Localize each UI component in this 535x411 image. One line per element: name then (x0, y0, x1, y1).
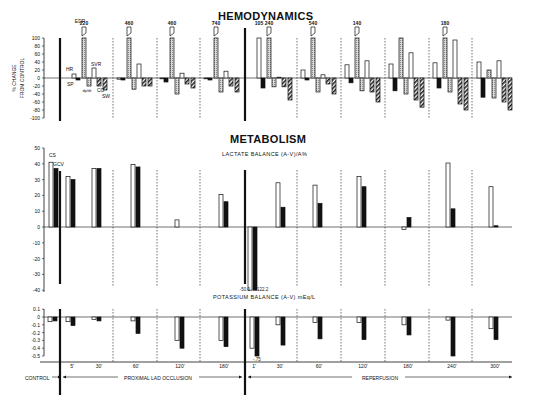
bar-svr (409, 53, 413, 78)
edp-value-label: 240 (265, 20, 274, 26)
hemo-y-tick-label: 100 (32, 35, 41, 41)
hemo-y-tick-label: -80 (33, 107, 40, 113)
lactate-y-tick-label: 20 (34, 192, 40, 198)
bar-cs-potassium (48, 317, 52, 322)
bar-cs (92, 169, 96, 227)
bar-sw (376, 78, 380, 102)
bar-dpdt (404, 78, 408, 94)
arrow-head (239, 376, 242, 379)
bar-hr (433, 63, 437, 78)
bar-gcv-potassium (136, 317, 140, 333)
bar-dpdt (87, 78, 91, 86)
bar-svr (321, 75, 325, 78)
edp-value-label: 460 (168, 20, 177, 26)
label-edp: EDP (75, 18, 86, 24)
figure: HEMODYNAMICS METABOLISM LACTATE BALANCE … (0, 0, 535, 411)
bar-edp (267, 38, 271, 78)
bar-dpdt (132, 78, 136, 89)
bar-edp (170, 38, 174, 78)
time-label: 60' (133, 363, 140, 369)
potassium-y-tick-label: -0.3 (31, 337, 40, 343)
bar-gcv-potassium (71, 317, 75, 326)
bar-hr (204, 78, 208, 79)
edp-break-marker (443, 27, 447, 36)
bar-sw (148, 78, 152, 86)
bar-gcv (281, 207, 285, 227)
bar-svr (365, 61, 369, 78)
bar-sp (393, 78, 397, 91)
bar-edp (443, 38, 447, 78)
bar-cs (66, 176, 70, 227)
bar-dpdt (492, 78, 496, 98)
potassium-y-tick-label: 0.1 (33, 306, 40, 312)
bar-dpdt (448, 78, 452, 92)
bar-gcv-potassium (255, 317, 259, 356)
bar-gcv (253, 227, 257, 290)
annotation-potassium: -.75 (253, 357, 261, 362)
bar-edp (311, 38, 315, 78)
bar-cs (276, 183, 280, 227)
bar-gcv-potassium (318, 317, 322, 339)
bar-cs (131, 165, 135, 227)
bar-dpdt (272, 78, 276, 87)
bar-sp (164, 78, 168, 82)
hemo-y-tick-label: 60 (34, 51, 40, 57)
lactate-y-tick-label: 30 (34, 177, 40, 183)
edp-value-label: 540 (309, 20, 318, 26)
bar-cs (49, 162, 53, 227)
bar-sp (437, 78, 441, 88)
time-label: 5' (70, 363, 74, 369)
hr-value-label: 105 (255, 20, 264, 26)
edp-break-marker (214, 27, 218, 36)
hemo-y-tick-label: 80 (34, 43, 40, 49)
time-label: 120' (175, 363, 184, 369)
bar-edp (82, 38, 86, 78)
bar-hr (257, 38, 261, 78)
chart-canvas: 100806040200-20-40-60-80-100% CHANGEFROM… (0, 0, 535, 411)
lactate-y-tick-label: -10 (33, 240, 40, 246)
bar-edp (127, 38, 131, 78)
time-label: 120' (358, 363, 367, 369)
time-label: 300' (490, 363, 499, 369)
bar-gcv (54, 169, 58, 227)
bar-cs-potassium (402, 317, 406, 325)
bar-co (229, 78, 233, 86)
edp-break-marker (267, 27, 271, 36)
hemo-ylabel-1: % CHANGE (11, 64, 17, 92)
bar-gcv-potassium (362, 317, 366, 340)
bar-sw (288, 78, 292, 100)
bar-gcv (224, 202, 228, 227)
bar-cs-potassium (175, 317, 179, 340)
edp-value-label: 180 (441, 20, 450, 26)
bar-dpdt (360, 78, 364, 91)
bar-cs (219, 195, 223, 227)
lactate-y-tick-label: 0 (37, 224, 40, 230)
bar-hr (477, 62, 481, 78)
time-label: 180' (403, 363, 412, 369)
bar-svr (497, 61, 501, 78)
lactate-y-tick-label: 50 (34, 145, 40, 151)
label-sp: SP (67, 81, 74, 87)
bar-dpdt (219, 78, 223, 92)
bar-gcv (451, 209, 455, 227)
bar-cs (357, 176, 361, 227)
bar-cs-potassium (92, 317, 96, 319)
bar-gcv (494, 226, 498, 227)
bar-gcv-potassium (224, 317, 228, 347)
bar-cs (175, 220, 179, 227)
bar-edp (487, 70, 491, 78)
bar-sp (76, 78, 80, 80)
edp-value-label: 740 (212, 20, 221, 26)
bar-sp (481, 78, 485, 97)
bar-cs-potassium (250, 317, 254, 348)
bar-svr (137, 64, 141, 78)
potassium-y-tick-label: -0.2 (31, 330, 40, 336)
bar-gcv-potassium (180, 317, 184, 348)
bar-edp (399, 38, 403, 78)
legend-gcv: GCV (53, 161, 65, 167)
lactate-y-tick-label: -30 (33, 271, 40, 277)
bar-cs-potassium (313, 317, 317, 322)
hemo-y-tick-label: -100 (30, 115, 40, 121)
bar-gcv-potassium (97, 317, 101, 321)
bar-svr (453, 40, 457, 78)
